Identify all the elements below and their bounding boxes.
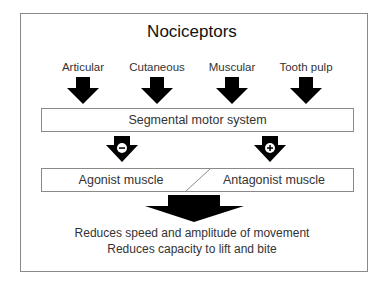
effect-line-1: Reduces speed and amplitude of movement bbox=[0, 225, 384, 241]
antagonist-muscle-label: Antagonist muscle bbox=[195, 173, 353, 187]
agonist-muscle-label: Agonist muscle bbox=[41, 173, 201, 187]
effect-line-2: Reduces capacity to lift and bite bbox=[0, 241, 384, 257]
